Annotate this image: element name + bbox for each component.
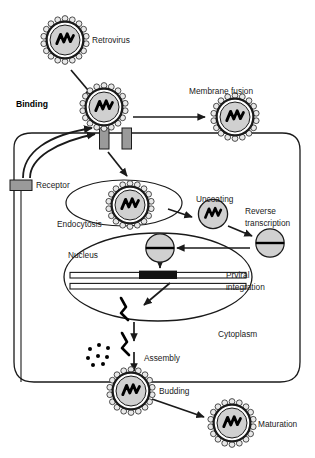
label-retrovirus: Retrovirus (92, 35, 130, 45)
label-uncoating: Uncoating (196, 194, 234, 204)
viral-protein-dots (86, 343, 110, 367)
viral-rna-nuclear (121, 298, 128, 320)
label-receptor: Receptor (36, 180, 70, 190)
virion-endocytosed (106, 181, 154, 230)
dna-reverse-transcription (256, 229, 284, 257)
label-proviral-2: integration (226, 282, 265, 292)
virion-membrane-fusion (211, 93, 259, 142)
label-reverse-transcription-2: transcription (245, 218, 291, 228)
diagram-canvas: Retrovirus Binding Membrane fusion Recep… (0, 0, 315, 458)
label-assembly: Assembly (144, 353, 181, 363)
label-budding: Budding (159, 386, 190, 396)
retrovirus-replication-diagram: Retrovirus Binding Membrane fusion Recep… (0, 0, 315, 458)
virion-retrovirus (41, 16, 89, 65)
dna-preintegration (146, 234, 174, 262)
receptor-recycle-arrows (23, 128, 95, 178)
label-proviral-1: Prviral (226, 270, 250, 280)
label-nucleus: Nucleus (68, 250, 98, 260)
label-maturation: Maturation (258, 419, 298, 429)
label-cytoplasm: Cytoplasm (218, 329, 257, 339)
receptor-block-left (10, 180, 32, 382)
label-binding: Binding (16, 99, 48, 109)
label-endocytosis: Endocytosis (57, 219, 102, 229)
viral-rna-cytoplasm (122, 333, 129, 355)
label-reverse-transcription-1: Reverse (245, 206, 276, 216)
virion-binding (80, 83, 128, 132)
virion-budding (107, 367, 155, 416)
label-membrane-fusion: Membrane fusion (189, 86, 253, 96)
integrated-provirus (139, 271, 177, 279)
virion-maturation (208, 399, 256, 448)
